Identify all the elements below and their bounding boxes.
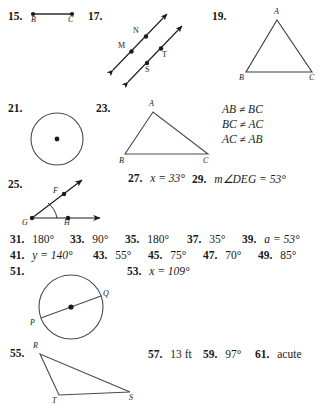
- figure-circle-diameter-pq: [35, 272, 107, 342]
- point-label-s: S: [129, 393, 133, 402]
- answer-text-47: 70°: [225, 249, 241, 261]
- answer-53: 53. x = 109°: [127, 265, 190, 277]
- answer-41: 41. y = 140°: [10, 249, 73, 261]
- answer-49: 49. 85°: [258, 249, 296, 261]
- point-label-b: B: [31, 15, 36, 24]
- answer-39: 39. a = 53°: [242, 233, 300, 245]
- point-label-a: A: [149, 99, 154, 108]
- answer-text-35: 180°: [147, 233, 169, 245]
- answer-59: 59. 97°: [203, 348, 241, 360]
- point-label-p: P: [30, 318, 35, 327]
- answer-text-57: 13 ft: [170, 348, 191, 360]
- exercise-number-37: 37.: [187, 233, 201, 245]
- point-label-c: C: [68, 15, 73, 24]
- figure-scalene-triangle-abc: [118, 104, 210, 160]
- answer-text-49: 85°: [280, 249, 296, 261]
- exercise-number-19: 19.: [212, 10, 226, 22]
- point-label-q: Q: [103, 289, 109, 298]
- relation-line-3: AC ≠ AB: [222, 133, 263, 145]
- triangle-abc-svg: [238, 14, 316, 80]
- scalene-triangle-svg: [118, 104, 210, 160]
- triangle-inequality-relations: AB ≠ BC BC ≠ AC AC ≠ AB: [222, 103, 263, 145]
- answer-text-33: 90°: [92, 233, 108, 245]
- circle-center-svg: [28, 110, 86, 168]
- point-label-h: H: [64, 218, 70, 227]
- answer-text-53: x = 109°: [149, 265, 189, 277]
- answer-45: 45. 75°: [148, 249, 186, 261]
- answer-31: 31. 180°: [10, 233, 54, 245]
- exercise-number-27: 27.: [128, 172, 142, 184]
- answer-47: 47. 70°: [203, 249, 241, 261]
- exercise-number-39: 39.: [242, 233, 256, 245]
- point-label-t: T: [52, 396, 56, 405]
- exercise-number-29: 29.: [192, 173, 206, 185]
- answer-37: 37. 35°: [187, 233, 225, 245]
- triangle-rts-svg: [32, 348, 140, 404]
- answer-43: 43. 55°: [93, 249, 131, 261]
- exercise-number-51: 51.: [10, 265, 24, 277]
- point-label-g: G: [22, 218, 28, 227]
- exercise-number-61: 61.: [255, 348, 269, 360]
- relation-line-2: BC ≠ AC: [222, 118, 263, 130]
- answer-text-41: y = 140°: [32, 249, 72, 261]
- exercise-number-35: 35.: [125, 233, 139, 245]
- circle-diameter-svg: [35, 272, 107, 342]
- answer-61: 61. acute: [255, 348, 302, 360]
- answer-text-59: 97°: [225, 348, 241, 360]
- point-label-r: R: [33, 341, 38, 350]
- exercise-number-41: 41.: [10, 249, 24, 261]
- exercise-number-31: 31.: [10, 233, 24, 245]
- exercise-number-21: 21.: [8, 102, 22, 114]
- exercise-number-15: 15.: [8, 10, 22, 22]
- figure-triangle-abc: [238, 14, 316, 80]
- point-label-m: M: [118, 41, 125, 50]
- point-label-n: N: [133, 26, 139, 35]
- answer-text-27: x = 33°: [150, 172, 185, 184]
- answer-35: 35. 180°: [125, 233, 169, 245]
- exercise-number-45: 45.: [148, 249, 162, 261]
- exercise-number-43: 43.: [93, 249, 107, 261]
- answer-text-61: acute: [277, 348, 301, 360]
- figure-circle-with-center: [28, 110, 86, 168]
- exercise-number-33: 33.: [70, 233, 84, 245]
- answer-text-31: 180°: [32, 233, 54, 245]
- exercise-number-49: 49.: [258, 249, 272, 261]
- point-label-t: T: [162, 50, 167, 59]
- answer-key-page: 15. B C 17. M N S T 19.: [0, 0, 326, 411]
- answer-text-39: a = 53°: [264, 233, 299, 245]
- point-label-b: B: [239, 73, 244, 82]
- exercise-number-59: 59.: [203, 348, 217, 360]
- answer-text-29: m∠DEG = 53°: [214, 173, 286, 185]
- answer-29: 29. m∠DEG = 53°: [192, 172, 286, 186]
- point-label-f: F: [53, 186, 58, 195]
- answer-text-37: 35°: [209, 233, 225, 245]
- exercise-number-25: 25.: [8, 178, 22, 190]
- answer-text-43: 55°: [115, 249, 131, 261]
- exercise-number-57: 57.: [148, 348, 162, 360]
- exercise-number-55: 55.: [10, 347, 24, 359]
- answer-33: 33. 90°: [70, 233, 108, 245]
- answer-57: 57. 13 ft: [148, 348, 192, 360]
- relation-line-1: AB ≠ BC: [222, 103, 263, 115]
- exercise-number-53: 53.: [127, 265, 141, 277]
- figure-triangle-rts: [32, 348, 140, 404]
- answer-text-45: 75°: [170, 249, 186, 261]
- point-label-a: A: [274, 7, 279, 16]
- point-label-b: B: [119, 156, 124, 165]
- exercise-number-23: 23.: [96, 102, 110, 114]
- point-label-c: C: [309, 73, 314, 82]
- answer-27: 27. x = 33°: [128, 172, 185, 184]
- exercise-number-17: 17.: [88, 10, 102, 22]
- point-label-s: S: [145, 65, 149, 74]
- exercise-number-47: 47.: [203, 249, 217, 261]
- point-label-c: C: [203, 156, 208, 165]
